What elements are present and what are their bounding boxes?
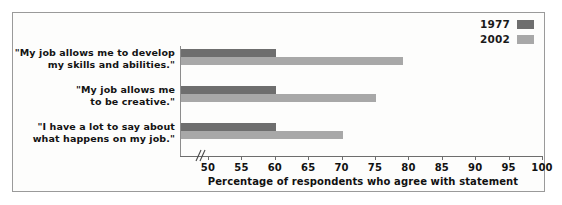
x-tick-label-50: 50 [201,162,215,173]
x-tick-label-95: 95 [501,162,515,173]
category-label-1-line-1: to be creative." [90,96,175,107]
x-axis-title: Percentage of respondents who agree with… [180,176,546,187]
x-tick-80 [408,156,409,160]
value-axis-area: 50556065707580859095100 Percentage of re… [180,13,546,193]
bar-1977-cat1[interactable] [181,86,276,94]
x-tick-label-70: 70 [334,162,348,173]
x-tick-95 [509,156,510,160]
bar-1977-cat0[interactable] [181,49,276,57]
bar-1977-cat2[interactable] [181,123,276,131]
x-tick-label-85: 85 [435,162,449,173]
bar-group-2 [181,123,543,140]
bar-group-1 [181,86,543,103]
x-tick-75 [375,156,376,160]
x-tick-label-75: 75 [368,162,382,173]
x-tick-label-65: 65 [301,162,315,173]
category-label-2: "I have a lot to say about what happens … [13,121,180,144]
x-tick-label-55: 55 [234,162,248,173]
x-axis-line [180,156,542,157]
x-tick-90 [475,156,476,160]
category-label-1: "My job allows me to be creative." [13,84,180,107]
category-label-2-line-1: what happens on my job." [33,133,175,144]
category-label-0-line-0: "My job allows me to develop [15,47,175,58]
x-tick-label-100: 100 [531,162,552,173]
x-tick-label-90: 90 [468,162,482,173]
x-tick-label-80: 80 [401,162,415,173]
bar-2002-cat2[interactable] [181,131,343,139]
bar-2002-cat0[interactable] [181,57,403,65]
category-label-0-line-1: my skills and abilities." [48,59,175,70]
category-label-2-line-0: "I have a lot to say about [37,121,175,132]
x-tick-60 [275,156,276,160]
x-tick-label-60: 60 [268,162,282,173]
chart-frame: 1977 2002 "My job allows me to develop m… [12,12,545,192]
x-tick-70 [342,156,343,160]
axis-break-icon [192,149,206,162]
category-label-0: "My job allows me to develop my skills a… [13,47,180,70]
chart-plot-area: "My job allows me to develop my skills a… [13,13,546,193]
bar-2002-cat1[interactable] [181,94,376,102]
x-tick-50 [208,156,209,160]
x-tick-55 [241,156,242,160]
bar-group-0 [181,49,543,66]
x-tick-65 [308,156,309,160]
x-tick-100 [542,156,543,160]
category-label-1-line-0: "My job allows me [76,84,175,95]
x-tick-85 [442,156,443,160]
